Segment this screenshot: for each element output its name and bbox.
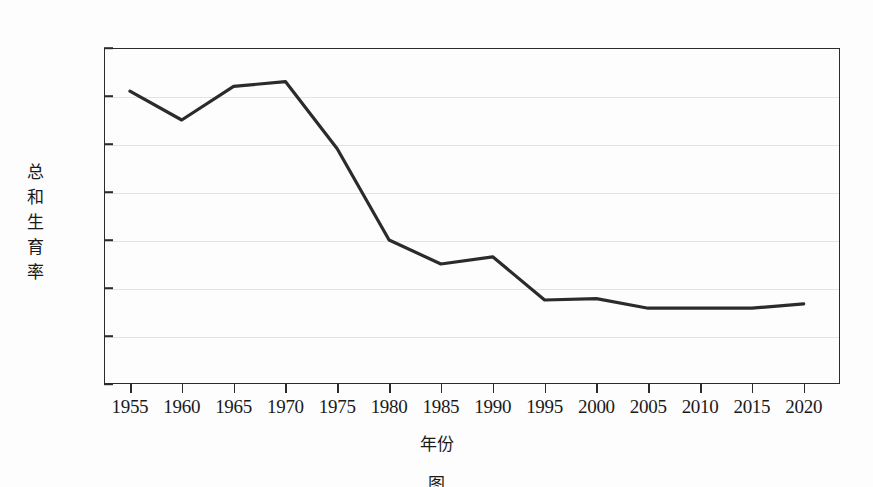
- y-axis-title-char: 总: [22, 160, 48, 185]
- y-tick-mark: [104, 47, 113, 49]
- x-tick-mark: [545, 384, 547, 393]
- x-tick-mark: [752, 384, 754, 393]
- x-tick-mark: [441, 384, 443, 393]
- x-tick-mark: [130, 384, 132, 393]
- y-tick-mark: [104, 191, 113, 193]
- gridline: [105, 145, 839, 146]
- x-tick-mark: [804, 384, 806, 393]
- gridline: [105, 337, 839, 338]
- y-axis-title-char: 率: [22, 260, 48, 285]
- y-tick-mark: [104, 287, 113, 289]
- x-tick-mark: [285, 384, 287, 393]
- y-tick-mark: [104, 143, 113, 145]
- x-tick-mark: [648, 384, 650, 393]
- plot-area: [104, 48, 840, 384]
- gridline: [105, 97, 839, 98]
- x-axis-title: 年份: [0, 430, 873, 455]
- x-tick-mark: [337, 384, 339, 393]
- y-tick-mark: [104, 335, 113, 337]
- x-tick-mark: [389, 384, 391, 393]
- x-tick-mark: [234, 384, 236, 393]
- x-tick-mark: [596, 384, 598, 393]
- figure-caption: 图: [0, 470, 873, 487]
- y-axis-title-char: 育: [22, 235, 48, 260]
- y-axis-title-char: 生: [22, 210, 48, 235]
- figure-container: 7.06.05.04.03.02.01.00 总和生育率 19551960196…: [0, 0, 873, 487]
- x-tick-mark: [182, 384, 184, 393]
- gridline: [105, 241, 839, 242]
- gridline: [105, 193, 839, 194]
- x-tick-mark: [700, 384, 702, 393]
- x-tick-mark: [493, 384, 495, 393]
- y-tick-mark: [104, 383, 113, 385]
- x-tick-label: 2020: [774, 396, 834, 418]
- y-axis-title-char: 和: [22, 185, 48, 210]
- y-axis: 7.06.05.04.03.02.01.00: [0, 0, 104, 487]
- y-tick-mark: [104, 95, 113, 97]
- y-axis-title: 总和生育率: [22, 160, 48, 285]
- y-tick-mark: [104, 239, 113, 241]
- gridline: [105, 289, 839, 290]
